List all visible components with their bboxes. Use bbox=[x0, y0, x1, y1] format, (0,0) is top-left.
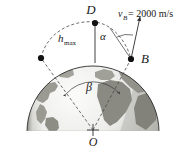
label-velocity-value: = 2000 m/s bbox=[128, 8, 173, 19]
velocity-vector bbox=[131, 17, 140, 59]
globe-left-limb-shade bbox=[27, 66, 43, 132]
trajectory-diagram-svg: D B O α β h max v B = 2000 m/s bbox=[0, 0, 190, 148]
label-point-b: B bbox=[141, 51, 149, 66]
label-hmax: h max bbox=[58, 32, 77, 47]
label-angle-alpha: α bbox=[100, 30, 106, 42]
reference-line-at-b bbox=[110, 28, 131, 59]
label-hmax-subscript: max bbox=[64, 39, 77, 47]
label-angle-beta: β bbox=[85, 80, 92, 94]
label-velocity: v B = 2000 m/s bbox=[118, 8, 173, 22]
label-point-d: D bbox=[85, 2, 96, 17]
point-marker-b bbox=[128, 56, 134, 62]
label-point-o: O bbox=[89, 135, 98, 148]
point-marker-d bbox=[92, 20, 98, 26]
point-marker-a bbox=[38, 55, 44, 61]
trajectory-arc bbox=[41, 22, 131, 59]
orbital-trajectory-figure: D B O α β h max v B = 2000 m/s bbox=[0, 0, 190, 148]
